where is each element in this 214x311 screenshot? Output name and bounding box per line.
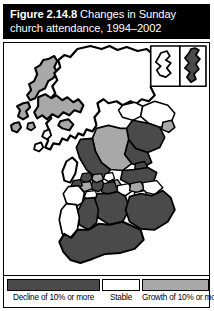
map-area-argyll-jura (42, 129, 51, 139)
legend-item-decline: Decline of 10% or more (7, 279, 100, 303)
figure-title-line-2: church attendance, 1994–2002 (10, 21, 204, 35)
map-legend: Decline of 10% or more Stable Growth of … (3, 276, 210, 308)
figure-title-band: Figure 2.14.8 Changes in Sunday church a… (3, 4, 210, 39)
legend-label-decline: Decline of 10% or more (7, 292, 100, 303)
legend-label-growth: Growth of 10% or more (142, 292, 209, 303)
map-area-western-isles-south (17, 102, 30, 119)
map-area-moray (119, 102, 143, 120)
figure-number: Figure 2.14.8 (10, 8, 77, 20)
map-area-scottish-borders (126, 191, 175, 230)
figure-title-rest: Changes in Sunday (77, 8, 176, 20)
legend-swatch-growth (142, 279, 209, 291)
scotland-choropleth-map (4, 43, 209, 275)
legend-item-stable: Stable (102, 279, 140, 303)
legend-swatch-decline (7, 279, 100, 291)
legend-label-stable: Stable (102, 292, 140, 303)
map-area-aberdeen-city (162, 120, 175, 132)
figure-title-line-1: Figure 2.14.8 Changes in Sunday (10, 7, 204, 21)
map-frame (3, 42, 210, 276)
map-area-western-isles (27, 56, 57, 100)
map-area-argyll-kintyre (62, 157, 77, 182)
map-area-western-isles-islet (27, 122, 35, 130)
legend-item-growth: Growth of 10% or more (142, 279, 209, 303)
map-area-western-isles-barra (11, 122, 21, 132)
map-area-argyll-islay (34, 142, 43, 151)
figure-container: Figure 2.14.8 Changes in Sunday church a… (0, 0, 214, 311)
legend-row: Decline of 10% or more Stable Growth of … (4, 276, 209, 307)
legend-swatch-stable (102, 279, 140, 291)
